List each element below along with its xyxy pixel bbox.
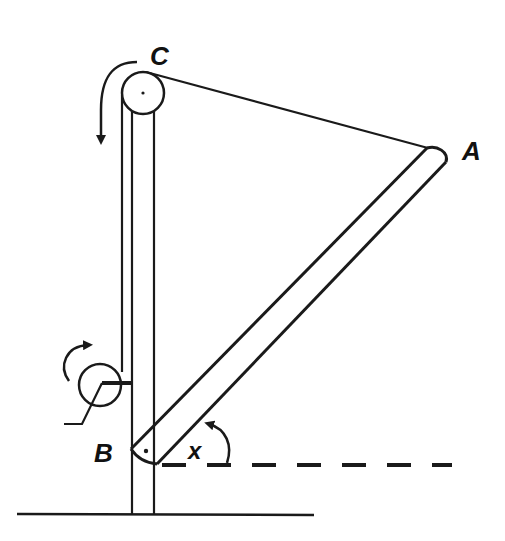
vertical-post [132, 100, 154, 514]
label-x: x [186, 437, 203, 464]
pulley [122, 72, 164, 114]
angle-arrow-icon [209, 424, 229, 463]
label-b: B [94, 438, 113, 468]
pulley-axle [141, 91, 144, 94]
mechanism-diagram: C A B x [0, 0, 505, 541]
ground-line [17, 514, 314, 515]
label-c: C [150, 41, 170, 71]
label-a: A [461, 136, 481, 166]
rope-to-a [146, 72, 428, 148]
pivot-pin [144, 449, 148, 453]
rod [131, 147, 446, 464]
